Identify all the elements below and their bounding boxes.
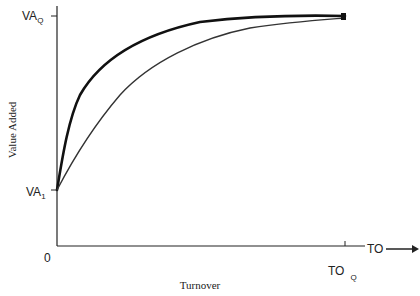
chart: Value Added Turnover 0 VAQ VA1 TOQ TO	[0, 0, 420, 296]
y-axis-label: Value Added	[6, 101, 18, 158]
x-axis-label: Turnover	[180, 279, 221, 291]
va1-label: VA1	[26, 185, 46, 201]
lower-curve	[57, 18, 345, 190]
arrow-icon	[412, 245, 419, 253]
origin-label: 0	[44, 251, 51, 265]
to-arrow-label: TO	[367, 242, 383, 256]
vaq-label: VAQ	[22, 9, 43, 25]
toq-label: TOQ	[328, 264, 357, 282]
curve-endpoint	[341, 13, 346, 20]
